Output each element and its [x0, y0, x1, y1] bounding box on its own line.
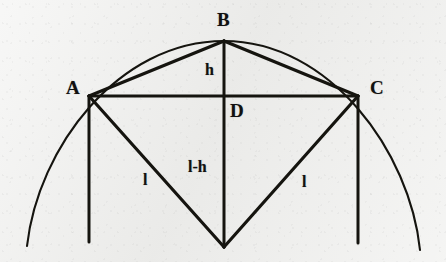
radius-CE-line	[224, 96, 358, 247]
chord-BC-line	[224, 41, 358, 96]
label-D: D	[230, 101, 244, 120]
label-h: h	[205, 62, 214, 78]
label-A: A	[66, 78, 80, 97]
geometry-figure	[0, 0, 446, 262]
label-B: B	[217, 10, 230, 29]
label-l-minus-h: l-h	[188, 159, 207, 175]
label-C: C	[370, 78, 384, 97]
diagram-canvas: A B C D h l-h l l	[0, 0, 446, 262]
label-l-left: l	[143, 172, 147, 188]
label-l-right: l	[302, 174, 306, 190]
chord-AB-line	[89, 41, 224, 96]
